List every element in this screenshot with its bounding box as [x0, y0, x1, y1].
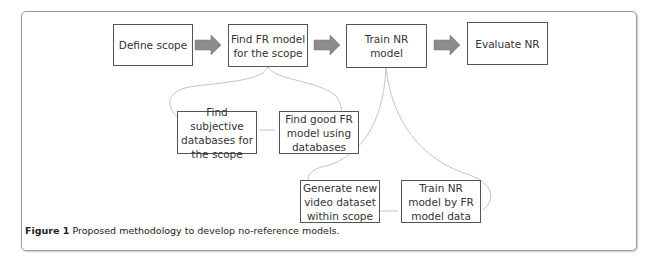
find-fr-model-box: Find FR model for the scope	[228, 24, 308, 67]
arrow-icon	[434, 35, 460, 55]
evaluate-nr-box: Evaluate NR	[467, 22, 548, 65]
arrow-icon	[314, 35, 340, 55]
find-good-fr-model-box: Find good FR model using databases	[279, 111, 359, 154]
figure-caption-text: Proposed methodology to develop no-refer…	[69, 225, 339, 236]
arrow-icon	[195, 35, 221, 55]
figure-caption: Figure 1 Proposed methodology to develop…	[25, 225, 340, 236]
define-scope-box: Define scope	[113, 24, 193, 66]
train-nr-model-box: Train NR model	[346, 24, 427, 68]
generate-new-video-dataset-box: Generate new video dataset within scope	[300, 180, 380, 223]
train-nr-model-label: Train NR model	[347, 32, 426, 60]
generate-new-video-dataset-label: Generate new video dataset within scope	[301, 181, 379, 223]
define-scope-label: Define scope	[119, 38, 187, 52]
train-nr-by-fr-data-box: Train NR model by FR model data	[401, 180, 481, 223]
find-subjective-databases-label: Find subjective databases for the scope	[178, 105, 256, 161]
figure-label: Figure 1	[25, 225, 69, 236]
find-fr-model-label: Find FR model for the scope	[229, 32, 307, 60]
evaluate-nr-label: Evaluate NR	[475, 37, 539, 51]
train-nr-by-fr-data-label: Train NR model by FR model data	[402, 181, 480, 223]
find-good-fr-model-label: Find good FR model using databases	[280, 112, 358, 154]
find-subjective-databases-box: Find subjective databases for the scope	[177, 111, 257, 154]
